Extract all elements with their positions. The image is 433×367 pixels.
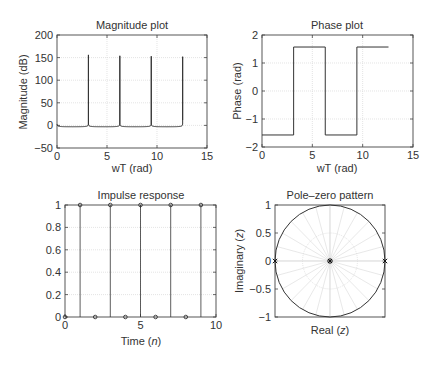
impulse-xlabel: Time (n) [121, 335, 162, 347]
y-tick-label: −2 [245, 141, 258, 153]
magnitude-title: Magnitude plot [96, 19, 168, 31]
y-tick-label: 0.5 [256, 227, 271, 239]
y-tick-label: 50 [41, 97, 53, 109]
y-tick-label: −1 [245, 113, 258, 125]
y-tick-label: 100 [35, 74, 53, 86]
impulse-response-plot: 051000.20.40.60.81 [46, 199, 222, 331]
x-tick-label: 10 [210, 319, 222, 331]
y-tick-label: 0 [47, 119, 53, 131]
magnitude-plot: 051015−50050100150200 [34, 29, 213, 162]
x-tick-label: 5 [104, 150, 110, 162]
x-tick-label: 15 [201, 150, 213, 162]
x-tick-label: 15 [407, 149, 419, 161]
y-tick-label: 2 [252, 29, 258, 41]
x-tick-label: 5 [309, 149, 315, 161]
x-tick-label: 10 [357, 149, 369, 161]
y-tick-label: −1 [258, 311, 271, 323]
x-tick-label: 5 [137, 319, 143, 331]
pole-zero-plot: −1−0.500.51 [249, 199, 387, 323]
polezero-xlabel: Real (z) [311, 324, 350, 336]
y-tick-label: 0.8 [46, 221, 61, 233]
x-tick-label: 0 [62, 319, 68, 331]
axes-frame [57, 35, 207, 148]
y-tick-label: 200 [35, 29, 53, 41]
magnitude-curve [57, 55, 183, 127]
x-tick-label: 0 [259, 149, 265, 161]
phase-plot: 051015−2−1012 [245, 29, 419, 161]
figure: 051015−50050100150200 051015−2−1012 0510… [0, 0, 433, 367]
magnitude-xlabel: wT (rad) [111, 162, 153, 174]
polezero-ylabel: Imaginary (z) [233, 229, 245, 293]
x-tick-label: 10 [151, 150, 163, 162]
y-tick-label: 0.2 [46, 289, 61, 301]
y-tick-label: −0.5 [249, 283, 271, 295]
y-tick-label: 1 [252, 57, 258, 69]
y-tick-label: 1 [55, 199, 61, 211]
y-tick-label: 1 [265, 199, 271, 211]
phase-title: Phase plot [311, 19, 363, 31]
phase-xlabel: wT (rad) [316, 162, 358, 174]
x-tick-label: 0 [54, 150, 60, 162]
y-tick-label: 150 [35, 52, 53, 64]
impulse-title: Impulse response [98, 189, 185, 201]
y-tick-label: 0.4 [46, 266, 61, 278]
y-tick-label: 0 [55, 311, 61, 323]
y-tick-label: 0.6 [46, 244, 61, 256]
y-tick-label: 0 [252, 85, 258, 97]
polezero-title: Pole–zero pattern [287, 189, 374, 201]
phase-ylabel: Phase (rad) [231, 62, 243, 119]
y-tick-label: −50 [34, 142, 53, 154]
magnitude-ylabel: Magnitude (dB) [17, 54, 29, 129]
y-tick-label: 0 [265, 255, 271, 267]
